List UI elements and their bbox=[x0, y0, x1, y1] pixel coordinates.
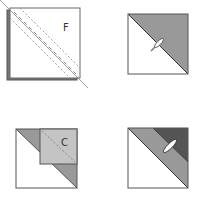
step-3-square-c: C bbox=[16, 129, 77, 188]
label-f: F bbox=[63, 22, 69, 33]
step-4-three-tone-block bbox=[128, 128, 188, 188]
label-c: C bbox=[61, 137, 68, 148]
quilt-diagram: F C bbox=[0, 0, 203, 198]
step-1-square-f: F bbox=[0, 0, 88, 88]
step-2-half-square-triangle bbox=[128, 14, 188, 74]
